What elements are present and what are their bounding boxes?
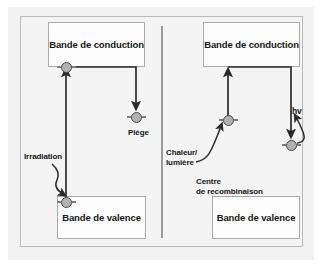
panel-divider <box>161 26 163 238</box>
conduction-band-box-left: Bande de conduction <box>48 22 145 67</box>
centre-recombinaison-label: Centre de recombinaison <box>196 177 263 197</box>
recombination-centre-node-right <box>286 140 297 151</box>
conduction-band-label-left: Bande de conduction <box>49 39 144 51</box>
hv-label: hv <box>292 106 302 116</box>
hole-node-valence-left <box>61 197 72 208</box>
piege-label: Piège <box>128 128 149 138</box>
trap-node-left <box>131 112 142 123</box>
valence-band-label-left: Bande de valence <box>62 212 141 224</box>
valence-band-box-right: Bande de valence <box>212 196 300 239</box>
valence-band-label-right: Bande de valence <box>217 212 296 224</box>
chaleur-lumiere-label: Chaleur/ lumière <box>166 148 197 168</box>
electron-node-conduction-left <box>61 62 72 73</box>
conduction-band-label-right: Bande de conduction <box>204 39 299 51</box>
conduction-band-box-right: Bande de conduction <box>203 22 300 67</box>
irradiation-label: Irradiation <box>24 152 62 162</box>
band-diagram-figure: Bande de conduction Bande de valence Ban… <box>0 0 322 267</box>
trap-node-right <box>223 115 234 126</box>
